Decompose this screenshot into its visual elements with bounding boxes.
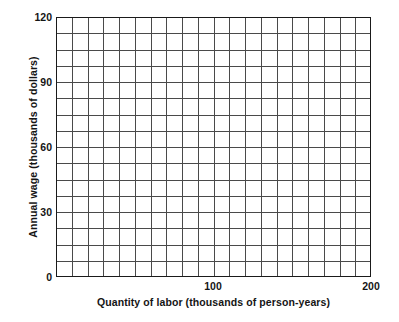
x-axis-title: Quantity of labor (thousands of person-y… — [56, 296, 371, 308]
chart-figure: Annual wage (thousands of dollars) 120 9… — [0, 0, 399, 322]
y-tick-label-30: 30 — [6, 207, 52, 218]
x-tick-label-200: 200 — [349, 281, 393, 292]
y-axis-tick-labels: 120 90 60 30 0 — [0, 0, 52, 322]
y-tick-label-0: 0 — [6, 272, 52, 283]
plot-area — [56, 17, 371, 277]
grid-lines — [56, 17, 371, 277]
y-tick-label-60: 60 — [6, 142, 52, 153]
y-tick-label-90: 90 — [6, 77, 52, 88]
x-tick-label-100: 100 — [191, 281, 235, 292]
y-tick-label-120: 120 — [6, 12, 52, 23]
